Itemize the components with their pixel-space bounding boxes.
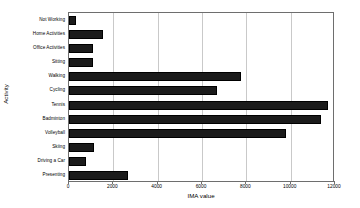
bar-row	[69, 115, 334, 124]
bar-row	[69, 143, 334, 152]
bar-row	[69, 44, 334, 53]
x-tick-label: 0	[67, 184, 70, 190]
bar-row	[69, 157, 334, 166]
bar	[69, 58, 93, 67]
bar-row	[69, 58, 334, 67]
bar-row	[69, 16, 334, 25]
plot-area	[68, 12, 334, 182]
bar	[69, 44, 93, 53]
y-tick-label: Skiing	[3, 144, 65, 149]
bar-row	[69, 171, 334, 180]
bar-row	[69, 101, 334, 110]
y-axis-title: Activity	[2, 64, 10, 124]
y-tick-label: Volleyball	[3, 130, 65, 135]
y-tick-label: Driving a Car	[3, 158, 65, 163]
y-tick-label: Walking	[3, 73, 65, 78]
y-tick-label: Home Activities	[3, 31, 65, 36]
bar	[69, 129, 286, 138]
bar	[69, 72, 241, 81]
y-tick-label: Cycling	[3, 87, 65, 92]
x-tick-label: 2000	[107, 184, 118, 190]
bar	[69, 101, 328, 110]
x-tick-label: 10000	[283, 184, 296, 190]
y-tick-label: Office Activities	[3, 45, 65, 50]
x-tick-label: 4000	[151, 184, 162, 190]
y-tick-label: Sitting	[3, 59, 65, 64]
bar-row	[69, 30, 334, 39]
bar	[69, 171, 128, 180]
bar-row	[69, 129, 334, 138]
x-axis-title: IMA value	[68, 192, 334, 200]
y-tick-label: Presenting	[3, 172, 65, 177]
bar	[69, 16, 76, 25]
bar	[69, 86, 217, 95]
x-tick-label: 8000	[240, 184, 251, 190]
x-tick-label: 12000	[327, 184, 340, 190]
bar	[69, 157, 86, 166]
bar	[69, 143, 94, 152]
bar-chart-figure: Not WorkingHome ActivitiesOffice Activit…	[0, 0, 360, 208]
y-tick-label: Badminton	[3, 116, 65, 121]
bar-row	[69, 72, 334, 81]
x-tick-label: 6000	[196, 184, 207, 190]
bar-row	[69, 86, 334, 95]
y-tick-label: Not Working	[3, 17, 65, 22]
y-tick-label: Tennis	[3, 102, 65, 107]
bar	[69, 115, 321, 124]
bar	[69, 30, 103, 39]
